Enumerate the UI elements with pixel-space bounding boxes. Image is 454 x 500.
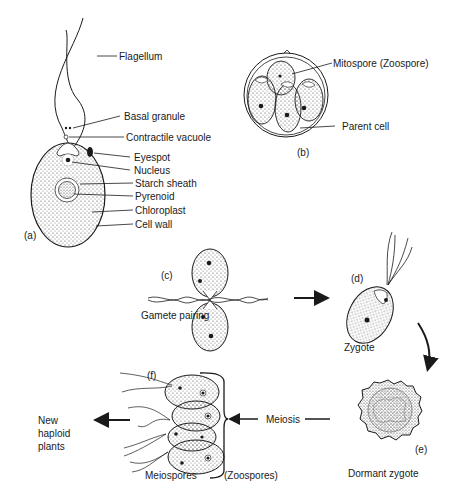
cell-b — [244, 50, 328, 137]
dormant-zygote-e — [358, 380, 422, 440]
result-line-2: haploid — [38, 427, 70, 440]
panel-tag-f: (f) — [147, 370, 156, 381]
arrow-d-to-e — [418, 323, 430, 368]
label-parent-cell: Parent cell — [342, 121, 389, 132]
label-basal-granule: Basal granule — [124, 111, 185, 122]
label-gamete-pairing: Gamete pairing — [141, 310, 209, 321]
label-mitospore: Mitospore (Zoospore) — [333, 58, 429, 69]
label-chloroplast: Chloroplast — [135, 205, 186, 216]
meiospores-f — [120, 373, 224, 474]
label-pyrenoid: Pyrenoid — [135, 191, 174, 202]
label-zoospores: (Zoospores) — [224, 470, 278, 481]
label-flagellum: Flagellum — [119, 51, 162, 62]
label-meiosis: Meiosis — [266, 414, 300, 425]
panel-tag-e: (e) — [415, 444, 427, 455]
zygote-d — [337, 232, 412, 351]
cell-a — [31, 18, 105, 247]
label-contractile-vacuole: Contractile vacuole — [126, 132, 211, 143]
result-line-1: New — [38, 414, 70, 427]
panel-tag-c: (c) — [161, 270, 173, 281]
result-line-3: plants — [38, 440, 70, 453]
label-zygote: Zygote — [344, 342, 375, 353]
label-eyespot: Eyespot — [134, 152, 170, 163]
label-starch-sheath: Starch sheath — [135, 178, 197, 189]
panel-tag-b: (b) — [297, 147, 309, 158]
panel-tag-a: (a) — [24, 230, 36, 241]
label-nucleus: Nucleus — [134, 165, 170, 176]
gametes-c — [148, 249, 268, 351]
label-meiospores: Meiospores — [145, 470, 197, 481]
label-new-haploid-plants: New haploid plants — [38, 414, 70, 453]
label-cell-wall: Cell wall — [135, 219, 172, 230]
panel-tag-d: (d) — [351, 273, 363, 284]
label-dormant-zygote: Dormant zygote — [348, 468, 419, 479]
